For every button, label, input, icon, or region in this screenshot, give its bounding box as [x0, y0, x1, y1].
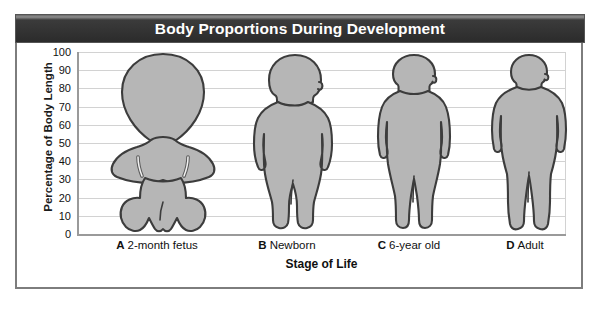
x-axis-title: Stage of Life [77, 257, 566, 271]
y-tick-50: 50 [45, 138, 71, 149]
x-label-a: A2-month fetus [77, 239, 237, 251]
page-title: Body Proportions During Development [155, 20, 445, 38]
x-label-d: DAdult [455, 239, 595, 251]
figure-adult [482, 52, 576, 234]
x-label-b: BNewborn [217, 239, 357, 251]
y-tick-70: 70 [45, 101, 71, 112]
y-tick-80: 80 [45, 83, 71, 94]
y-tick-30: 30 [45, 174, 71, 185]
x-key-c: C [378, 239, 386, 251]
y-tick-20: 20 [45, 192, 71, 203]
y-tick-0: 0 [45, 229, 71, 240]
y-tick-40: 40 [45, 156, 71, 167]
x-key-b: B [258, 239, 266, 251]
x-key-d: D [506, 239, 514, 251]
y-tick-60: 60 [45, 119, 71, 130]
figure-fetus [107, 52, 219, 234]
x-key-a: A [116, 239, 124, 251]
x-text-a: 2-month fetus [127, 239, 197, 251]
x-text-c: 6-year old [389, 239, 440, 251]
y-tick-100: 100 [45, 47, 71, 58]
plot-area [77, 52, 566, 236]
figure-newborn [246, 52, 344, 234]
y-tick-90: 90 [45, 65, 71, 76]
x-text-b: Newborn [270, 239, 316, 251]
x-axis-category-labels: A2-month fetus BNewborn C6-year old DAdu… [77, 239, 566, 255]
chart-region: Percentage of Body Length 100 90 80 70 6… [15, 43, 583, 289]
x-text-d: Adult [518, 239, 544, 251]
y-axis-tick-labels: 100 90 80 70 60 50 40 30 20 10 0 [45, 52, 71, 234]
chart-title-banner: Body Proportions During Development [15, 14, 585, 43]
figure-six-year-old [367, 52, 461, 234]
y-tick-10: 10 [45, 210, 71, 221]
